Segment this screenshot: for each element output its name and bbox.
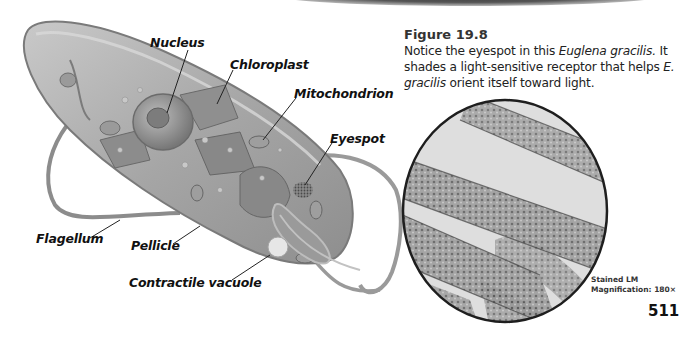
eyespot-shape bbox=[293, 182, 313, 198]
label-flagellum: Flagellum bbox=[36, 231, 103, 246]
label-eyespot: Eyespot bbox=[330, 131, 385, 146]
caption-segment: orient itself toward light. bbox=[446, 76, 595, 90]
figure-number: Figure 19.8 bbox=[404, 27, 698, 42]
figure-caption-text: Notice the eyespot in this Euglena graci… bbox=[404, 43, 694, 91]
label-mitochondrion: Mitochondrion bbox=[294, 86, 393, 101]
caption-species-name: Euglena gracilis. bbox=[559, 44, 656, 58]
micrograph-info: Stained LM Magnification: 180× bbox=[591, 275, 676, 295]
page-number: 511 bbox=[648, 302, 679, 320]
label-nucleus: Nucleus bbox=[150, 35, 204, 50]
caption-segment: Notice the eyespot in this bbox=[404, 44, 559, 58]
contractile-vacuole-shape bbox=[268, 237, 288, 257]
magnification-label: Magnification: 180× bbox=[591, 285, 676, 295]
label-pellicle: Pellicle bbox=[131, 238, 180, 253]
label-chloroplast: Chloroplast bbox=[230, 57, 309, 72]
stain-label: Stained LM bbox=[591, 275, 676, 285]
figure-caption: Figure 19.8 Notice the eyespot in this E… bbox=[404, 27, 698, 91]
label-contractile-vacuole: Contractile vacuole bbox=[129, 275, 261, 290]
